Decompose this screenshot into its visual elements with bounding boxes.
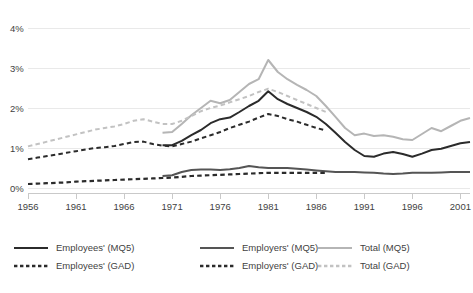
y-tick-label-3pct: 3% [10,63,24,74]
legend-label-total-mq5: Total (MQ5) [360,242,410,253]
legend-label-employees-gad: Employees' (GAD) [56,260,134,271]
legend-item-employers-mq5[interactable]: Employers' (MQ5) [200,242,318,253]
series-line-total-gad [28,89,326,147]
legend-label-employees-mq5: Employees' (MQ5) [56,242,134,253]
y-tick-label-2pct: 2% [10,103,24,114]
y-tick-label-1pct: 1% [10,143,24,154]
y-axis-tick-labels: 0%1%2%3%4% [10,23,24,194]
gridlines [28,28,470,188]
x-tick-label-1976: 1976 [210,201,231,212]
x-tick-label-1961: 1961 [65,201,86,212]
series-line-total-mq5 [163,60,470,140]
legend-item-employees-mq5[interactable]: Employees' (MQ5) [14,242,134,253]
x-tick-label-1986: 1986 [306,201,327,212]
legend-item-employees-gad[interactable]: Employees' (GAD) [14,260,134,271]
legend-item-total-gad[interactable]: Total (GAD) [318,260,410,271]
x-tick-label-1971: 1971 [162,201,183,212]
x-axis-tick-labels: 1956196119661971197619811986199119962001 [17,201,471,212]
legend-label-total-gad: Total (GAD) [360,260,410,271]
chart-canvas: 0%1%2%3%4% 19561961196619711976198119861… [0,0,473,293]
y-tick-label-4pct: 4% [10,23,24,34]
legend-label-employers-gad: Employers' (GAD) [242,260,318,271]
x-axis [28,193,470,199]
legend-item-total-mq5[interactable]: Total (MQ5) [318,242,410,253]
plot-series-group [28,60,470,184]
x-tick-label-1996: 1996 [402,201,423,212]
x-tick-label-1991: 1991 [354,201,375,212]
x-tick-label-1966: 1966 [114,201,135,212]
x-tick-label-2001: 2001 [450,201,471,212]
chart-legend: Employees' (MQ5)Employees' (GAD)Employer… [14,242,410,271]
series-line-employees-gad [28,114,326,159]
x-tick-label-1956: 1956 [17,201,38,212]
x-tick-label-1981: 1981 [258,201,279,212]
legend-label-employers-mq5: Employers' (MQ5) [242,242,318,253]
legend-item-employers-gad[interactable]: Employers' (GAD) [200,260,318,271]
line-chart: 0%1%2%3%4% 19561961196619711976198119861… [0,0,473,293]
y-tick-label-0pct: 0% [10,183,24,194]
